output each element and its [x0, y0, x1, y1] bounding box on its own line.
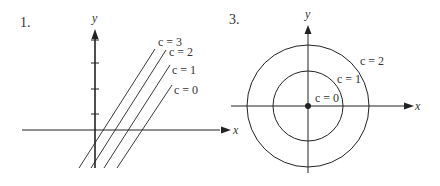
figure-3-number: 3. [229, 12, 240, 27]
figure-1-x-axis-label: x [232, 123, 239, 137]
curve-label-c1: c = 1 [172, 63, 196, 77]
x-axis-label: x [414, 99, 421, 113]
figure-1: 1. y c = 3 c = 2 c = 1 c = 0 [20, 11, 220, 168]
y-axis-arrow-icon [92, 29, 99, 39]
y-axis-arrow-icon [305, 25, 312, 34]
x-axis-arrow-icon [404, 103, 414, 110]
curve-label-c2: c = 2 [169, 45, 193, 59]
figure-1-x-axis-arrow-icon [221, 127, 231, 134]
figure-1-number: 1. [20, 15, 31, 30]
level-line-c0 [117, 85, 172, 168]
curve-label-c2: c = 2 [360, 54, 384, 68]
figure-3: 3. x y c = 2 c = 1 c = 0 [229, 7, 421, 173]
y-axis-label: y [91, 11, 98, 25]
curve-label-c0: c = 0 [315, 91, 339, 105]
level-line-c1 [104, 65, 170, 168]
level-lines [79, 49, 172, 168]
level-curves-figure: 1. y c = 3 c = 2 c = 1 c = 0 3. [0, 0, 440, 186]
level-line-c3 [79, 49, 155, 168]
curve-label-c0: c = 0 [174, 83, 198, 97]
level-point-c0 [305, 103, 311, 109]
y-axis-label: y [304, 7, 311, 21]
curve-label-c1: c = 1 [337, 72, 361, 86]
